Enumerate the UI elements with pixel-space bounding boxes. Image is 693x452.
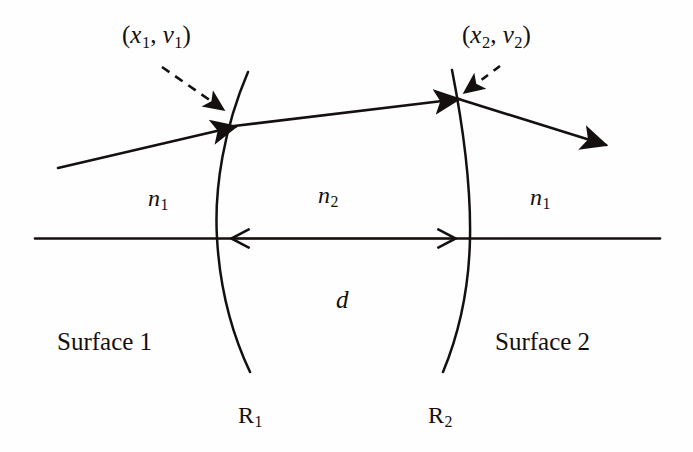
v1-subscript: 1 — [174, 33, 183, 52]
exit-ray — [457, 99, 606, 146]
diagram-vector-layer — [0, 0, 693, 452]
R-symbol: R — [238, 402, 254, 428]
x1-symbol: x — [130, 21, 141, 48]
coord1-comma: , — [150, 21, 163, 48]
R-symbol: R — [428, 402, 444, 428]
v1-symbol: v — [163, 21, 174, 48]
thickness-label: d — [336, 287, 349, 312]
R-subscript: 2 — [444, 413, 452, 430]
refractive-index-left: n1 — [148, 186, 168, 213]
n-symbol: n — [148, 185, 160, 211]
x1-subscript: 1 — [141, 33, 150, 52]
x2-subscript: 2 — [481, 33, 490, 52]
optical-ray-diagram: (x1, v1) (x2, v2) n1 n2 n1 d Surface 1 S… — [0, 0, 693, 452]
n-symbol: n — [318, 182, 330, 208]
n-symbol: n — [530, 184, 542, 210]
n-subscript: 1 — [160, 196, 168, 213]
x2-symbol: x — [470, 21, 481, 48]
refractive-index-middle: n2 — [318, 183, 338, 210]
n-subscript: 2 — [330, 193, 338, 210]
paren-close: ) — [183, 21, 191, 48]
surface-1-label: Surface 1 — [57, 329, 152, 354]
coordinate-label-2: (x2, v2) — [462, 22, 531, 51]
paren-close: ) — [523, 21, 531, 48]
refractive-index-right: n1 — [530, 185, 550, 212]
coordinate-label-1: (x1, v1) — [122, 22, 191, 51]
n-subscript: 1 — [542, 195, 550, 212]
coord1-pointer-arrow — [162, 67, 224, 110]
coord2-comma: , — [490, 21, 503, 48]
radius-1-label: R1 — [238, 403, 262, 430]
v2-symbol: v — [503, 21, 514, 48]
surface-1-curve — [216, 72, 250, 372]
surface-2-label: Surface 2 — [495, 329, 590, 354]
radius-2-label: R2 — [428, 403, 452, 430]
R-subscript: 1 — [254, 413, 262, 430]
internal-ray — [234, 99, 459, 126]
incident-ray — [58, 127, 236, 169]
surface-2-curve — [443, 70, 470, 372]
v2-subscript: 2 — [514, 33, 523, 52]
coord2-pointer-arrow — [464, 66, 500, 93]
